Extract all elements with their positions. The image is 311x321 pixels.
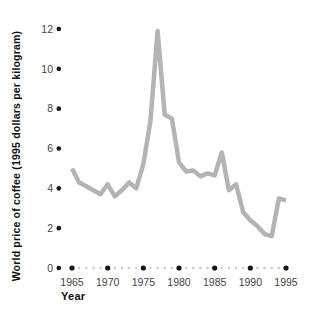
y-tick-dot xyxy=(57,106,62,111)
x-tick-dot xyxy=(69,265,74,270)
x-tick-dot xyxy=(283,265,288,270)
x-minor-dot xyxy=(256,267,258,269)
x-axis-label: Year xyxy=(61,290,85,302)
x-tick-label: 1980 xyxy=(167,276,191,288)
y-tick-label: 10 xyxy=(41,63,53,75)
y-tick-label: 4 xyxy=(47,182,53,194)
y-tick-dot xyxy=(57,27,62,32)
x-tick-label: 1965 xyxy=(60,276,84,288)
y-tick-dot xyxy=(57,266,62,271)
y-tick-label: 6 xyxy=(47,142,53,154)
x-minor-dot xyxy=(135,267,137,269)
x-minor-dot xyxy=(164,267,166,269)
x-minor-dot xyxy=(92,267,94,269)
x-minor-dot xyxy=(228,267,230,269)
y-tick-dot xyxy=(57,226,62,231)
price-line xyxy=(72,31,286,236)
x-minor-dot xyxy=(221,267,223,269)
y-tick-dot xyxy=(57,186,62,191)
x-minor-dot xyxy=(171,267,173,269)
x-tick-label: 1990 xyxy=(239,276,263,288)
x-minor-dot xyxy=(156,267,158,269)
y-tick-dot xyxy=(57,146,62,151)
x-minor-dot xyxy=(278,267,280,269)
x-minor-dot xyxy=(85,267,87,269)
coffee-price-chart: World price of coffee (1995 dollars per … xyxy=(0,0,311,321)
line-chart: 0246810121965197019751980198519901995 xyxy=(0,0,311,321)
x-minor-dot xyxy=(78,267,80,269)
x-tick-dot xyxy=(212,265,217,270)
y-tick-label: 0 xyxy=(47,262,53,274)
x-tick-label: 1975 xyxy=(132,276,156,288)
x-tick-dot xyxy=(176,265,181,270)
x-tick-dot xyxy=(248,265,253,270)
x-minor-dot xyxy=(263,267,265,269)
x-minor-dot xyxy=(185,267,187,269)
x-tick-label: 1970 xyxy=(96,276,120,288)
y-tick-label: 12 xyxy=(41,23,53,35)
y-tick-label: 8 xyxy=(47,102,53,114)
y-tick-label: 2 xyxy=(47,222,53,234)
x-minor-dot xyxy=(199,267,201,269)
x-minor-dot xyxy=(242,267,244,269)
x-minor-dot xyxy=(121,267,123,269)
x-tick-dot xyxy=(105,265,110,270)
x-minor-dot xyxy=(114,267,116,269)
y-tick-dot xyxy=(57,67,62,72)
x-tick-dot xyxy=(141,265,146,270)
x-minor-dot xyxy=(128,267,130,269)
x-minor-dot xyxy=(192,267,194,269)
x-minor-dot xyxy=(99,267,101,269)
x-minor-dot xyxy=(271,267,273,269)
x-minor-dot xyxy=(149,267,151,269)
x-tick-label: 1995 xyxy=(274,276,298,288)
x-minor-dot xyxy=(206,267,208,269)
x-minor-dot xyxy=(235,267,237,269)
x-tick-label: 1985 xyxy=(203,276,227,288)
